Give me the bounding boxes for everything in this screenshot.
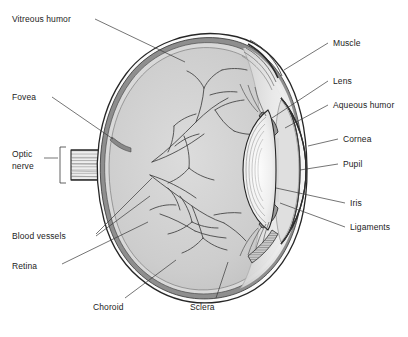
label-fovea: Fovea xyxy=(12,92,36,102)
label-muscle: Muscle xyxy=(333,38,361,48)
label-blood-vessels: Blood vessels xyxy=(12,231,66,241)
label-iris: Iris xyxy=(350,198,362,208)
label-pupil: Pupil xyxy=(343,159,362,169)
eye-anatomy-diagram: Vitreous humor Fovea Optic nerve Blood v… xyxy=(0,0,408,337)
label-lens: Lens xyxy=(333,76,352,86)
label-sclera: Sclera xyxy=(190,302,215,312)
label-choroid: Choroid xyxy=(93,302,124,312)
label-optic-nerve-line2: nerve xyxy=(12,161,34,171)
label-cornea: Cornea xyxy=(343,134,372,144)
label-aqueous-humor: Aqueous humor xyxy=(333,100,394,110)
eye-cross-section-illustration: Vitreous humor Fovea Optic nerve Blood v… xyxy=(0,0,408,337)
label-ligaments: Ligaments xyxy=(350,222,390,232)
label-vitreous-humor: Vitreous humor xyxy=(12,14,71,24)
label-retina: Retina xyxy=(12,261,37,271)
label-optic-nerve-line1: Optic xyxy=(12,149,33,159)
